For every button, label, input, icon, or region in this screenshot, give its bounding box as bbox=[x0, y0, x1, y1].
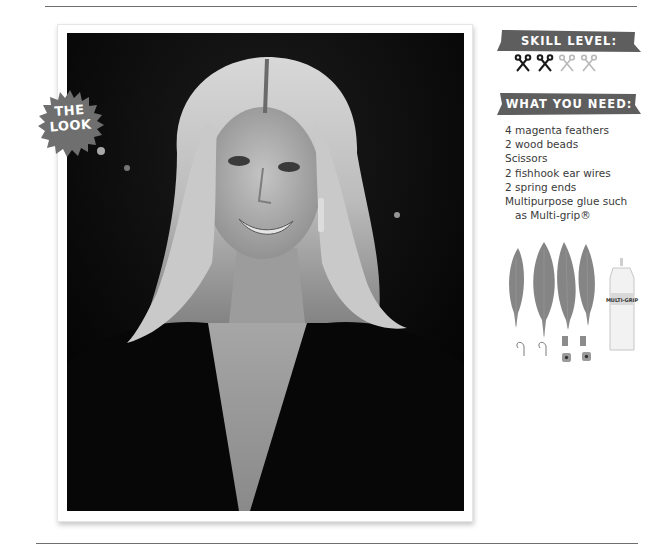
skill-rating bbox=[514, 54, 598, 74]
supply-item: 2 fishhook ear wires bbox=[505, 166, 650, 180]
supply-list: 4 magenta feathers 2 wood beads Scissors… bbox=[505, 123, 650, 222]
photo-frame bbox=[57, 24, 473, 522]
supply-item: 2 wood beads bbox=[505, 137, 650, 151]
top-rule bbox=[45, 6, 637, 7]
supply-item: 2 spring ends bbox=[505, 180, 650, 194]
supplies-photo: MULTI-GRIP bbox=[500, 238, 640, 368]
scissors-icon-inactive bbox=[580, 54, 598, 72]
skill-level-banner: SKILL LEVEL: bbox=[497, 30, 641, 52]
supply-item: 4 magenta feathers bbox=[505, 123, 650, 137]
supply-item: Scissors bbox=[505, 151, 650, 165]
glue-label: MULTI-GRIP bbox=[606, 297, 639, 303]
supply-item: Multipurpose glue such bbox=[505, 194, 650, 208]
what-you-need-title: WHAT YOU NEED: bbox=[497, 97, 641, 111]
bottom-rule bbox=[36, 543, 638, 544]
portrait-photo bbox=[67, 33, 464, 511]
scissors-icon bbox=[536, 54, 554, 72]
scissors-icon-inactive bbox=[558, 54, 576, 72]
scissors-icon bbox=[514, 54, 532, 72]
the-look-badge: THE LOOK bbox=[34, 88, 106, 160]
skill-level-title: SKILL LEVEL: bbox=[497, 34, 641, 48]
supply-item-continued: as Multi-grip® bbox=[505, 208, 650, 222]
what-you-need-banner: WHAT YOU NEED: bbox=[497, 93, 641, 115]
